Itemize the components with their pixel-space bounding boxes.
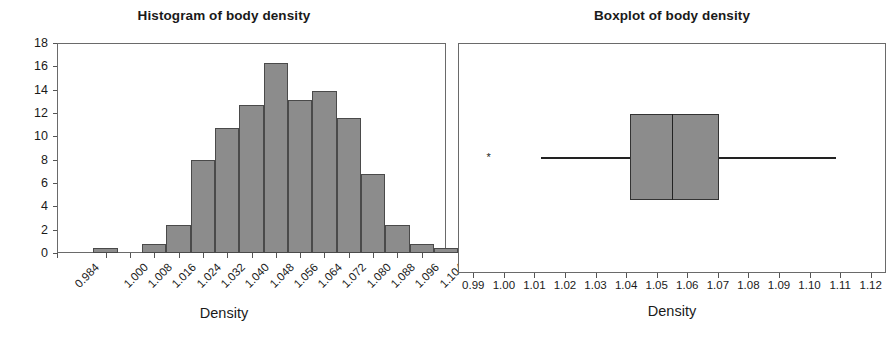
boxplot-x-tick-mark — [748, 273, 749, 278]
boxplot-x-tick-mark — [810, 273, 811, 278]
histogram-bar — [385, 225, 409, 253]
histogram-x-tick-label: 1.016 — [170, 261, 199, 290]
boxplot-median-line — [672, 114, 674, 200]
boxplot-x-tick-mark — [718, 273, 719, 278]
boxplot-x-tick-label: 1.01 — [523, 279, 545, 291]
boxplot-x-tick-label: 1.03 — [584, 279, 606, 291]
histogram-x-tick-label: 1.064 — [316, 261, 345, 290]
boxplot-x-tick-label: 1.06 — [676, 279, 698, 291]
histogram-bar — [312, 91, 336, 253]
histogram-x-tick-label: 1.048 — [267, 261, 296, 290]
boxplot-x-tick-label: 1.07 — [707, 279, 729, 291]
boxplot-x-tick-label: 1.08 — [737, 279, 759, 291]
histogram-x-tick-label: 1.040 — [243, 261, 272, 290]
boxplot-x-tick-label: 1.10 — [798, 279, 820, 291]
histogram-panel: Histogram of body density Percent 024681… — [0, 0, 448, 339]
histogram-bar — [191, 160, 215, 253]
histogram-bar — [239, 105, 263, 253]
boxplot-x-tick-label: 1.00 — [493, 279, 515, 291]
histogram-x-tick-label: 1.096 — [413, 261, 442, 290]
boxplot-x-axis-label: Density — [448, 303, 896, 319]
boxplot-title: Boxplot of body density — [448, 8, 896, 23]
histogram-x-tick-label: 1.080 — [364, 261, 393, 290]
histogram-bar — [410, 244, 434, 253]
boxplot-x-tick-mark — [871, 273, 872, 278]
boxplot-drawing-area: * — [458, 43, 886, 273]
histogram-x-tick-label: 1.072 — [340, 261, 369, 290]
histogram-bar — [288, 100, 312, 253]
boxplot-x-tick-mark — [840, 273, 841, 278]
histogram-y-tick-label: 0 — [41, 246, 48, 260]
histogram-y-tick-label: 4 — [41, 199, 48, 213]
histogram-x-tick-label: 0.984 — [72, 261, 101, 290]
boxplot-x-tick-label: 1.05 — [646, 279, 668, 291]
boxplot-x-tick-mark — [565, 273, 566, 278]
histogram-bar — [361, 174, 385, 253]
histogram-y-tick-label: 12 — [34, 106, 48, 120]
boxplot-x-tick-mark — [504, 273, 505, 278]
histogram-bar — [337, 118, 361, 253]
histogram-y-axis: 024681012141618 — [0, 43, 57, 253]
boxplot-x-tick-label: 0.99 — [462, 279, 484, 291]
boxplot-x-tick-mark — [779, 273, 780, 278]
boxplot-x-tick-mark — [626, 273, 627, 278]
boxplot-x-tick-mark — [687, 273, 688, 278]
boxplot-outlier-marker: * — [486, 152, 490, 163]
histogram-y-tick-label: 6 — [41, 176, 48, 190]
histogram-x-axis-label: Density — [0, 305, 448, 321]
histogram-y-tick-label: 8 — [41, 153, 48, 167]
boxplot-box — [630, 114, 718, 200]
histogram-bar — [166, 225, 190, 253]
histogram-x-tick-label: 1.056 — [291, 261, 320, 290]
boxplot-x-tick-label: 1.09 — [768, 279, 790, 291]
boxplot-panel: Boxplot of body density * 0.991.001.011.… — [448, 0, 896, 339]
boxplot-x-tick-labels: 0.991.001.011.021.031.041.051.061.071.08… — [458, 279, 886, 297]
boxplot-x-tick-label: 1.04 — [615, 279, 637, 291]
histogram-x-tick-label: 1.008 — [145, 261, 174, 290]
histogram-y-tick-label: 10 — [34, 129, 48, 143]
histogram-bars — [57, 43, 446, 253]
boxplot-x-tick-mark — [473, 273, 474, 278]
figure-root: Histogram of body density Percent 024681… — [0, 0, 896, 339]
histogram-x-tick-label: 1.024 — [194, 261, 223, 290]
boxplot-x-tick-mark — [534, 273, 535, 278]
boxplot-x-tick-label: 1.12 — [860, 279, 882, 291]
histogram-y-tick-label: 14 — [34, 83, 48, 97]
histogram-y-tick-label: 2 — [41, 223, 48, 237]
boxplot-x-tick-label: 1.11 — [829, 279, 851, 291]
histogram-bar — [264, 63, 288, 253]
boxplot-left-whisker — [541, 157, 630, 159]
histogram-title: Histogram of body density — [0, 8, 448, 23]
histogram-bar — [215, 128, 239, 253]
histogram-y-tick-label: 16 — [34, 59, 48, 73]
boxplot-x-tick-label: 1.02 — [554, 279, 576, 291]
histogram-x-tick-label: 1.032 — [218, 261, 247, 290]
histogram-x-tick-labels: 0.9841.0001.0081.0161.0241.0321.0401.048… — [57, 258, 446, 304]
boxplot-x-tick-mark — [657, 273, 658, 278]
histogram-x-tick-label: 1.088 — [388, 261, 417, 290]
boxplot-right-whisker — [719, 157, 837, 159]
boxplot-x-tick-mark — [596, 273, 597, 278]
histogram-y-tick-label: 18 — [34, 36, 48, 50]
histogram-bar — [142, 244, 166, 253]
histogram-x-tick-label: 1.000 — [121, 261, 150, 290]
